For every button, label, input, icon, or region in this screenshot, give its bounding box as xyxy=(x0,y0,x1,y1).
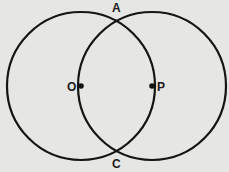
point-label-o: O xyxy=(67,81,76,93)
point-o-dot xyxy=(78,83,84,89)
point-label-p: P xyxy=(157,81,165,93)
point-label-a: A xyxy=(112,2,121,14)
point-p-dot xyxy=(149,83,155,89)
point-label-c: C xyxy=(112,158,121,170)
intersecting-circles-diagram xyxy=(0,0,229,172)
